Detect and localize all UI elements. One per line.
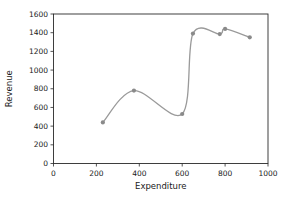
- x-tick-label: 600: [175, 169, 190, 178]
- plot-area: [54, 14, 269, 164]
- data-point-marker: [180, 112, 184, 116]
- y-tick-label: 800: [34, 84, 49, 93]
- data-point-marker: [218, 32, 222, 36]
- y-tick-label: 200: [34, 140, 49, 149]
- x-tick-label: 800: [218, 169, 233, 178]
- x-tick-label: 1000: [258, 169, 277, 178]
- y-axis-label: Revenue: [4, 70, 14, 107]
- x-tick-label: 200: [89, 169, 104, 178]
- y-tick-label: 1400: [29, 28, 48, 37]
- y-tick-label: 400: [34, 122, 49, 131]
- data-point-marker: [132, 89, 136, 93]
- x-axis-label: Expenditure: [135, 181, 186, 191]
- data-point-marker: [223, 27, 227, 31]
- x-tick-label: 400: [132, 169, 147, 178]
- data-point-marker: [101, 120, 105, 124]
- y-tick-label: 1600: [29, 10, 48, 19]
- data-point-marker: [248, 35, 252, 39]
- y-tick-label: 1000: [29, 66, 48, 75]
- y-tick-label: 1200: [29, 47, 48, 56]
- line-chart: 0200400600800100002004006008001000120014…: [0, 0, 295, 206]
- y-tick-label: 0: [43, 159, 48, 168]
- data-point-marker: [191, 32, 195, 36]
- y-tick-label: 600: [34, 103, 49, 112]
- x-tick-label: 0: [51, 169, 56, 178]
- chart-figure: 0200400600800100002004006008001000120014…: [0, 0, 295, 206]
